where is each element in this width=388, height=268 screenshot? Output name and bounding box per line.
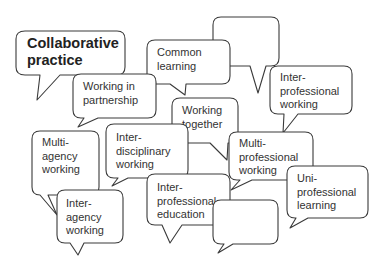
collaborative-practice-diagram: Collaborative practice Common learning W…: [0, 0, 388, 268]
